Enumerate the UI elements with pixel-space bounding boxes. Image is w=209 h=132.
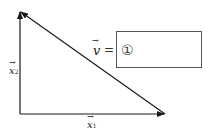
equals-sign: = [104,44,114,56]
label-x1: x1 [87,120,96,130]
label-v: v [93,44,100,57]
label-x1-subscript: 1 [93,122,97,129]
blank-marker: ① [121,43,134,57]
label-x2: x2 [9,66,18,76]
label-x2-subscript: 2 [15,68,19,75]
